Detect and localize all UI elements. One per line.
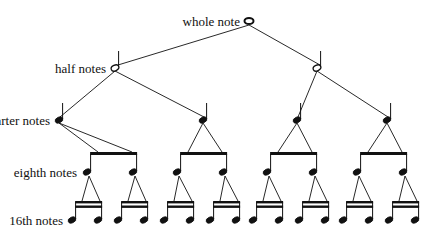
connector-line [118,25,249,65]
connector-line [269,176,281,201]
sixteenth-beam [75,206,102,208]
connector-line [59,123,98,152]
connector-line [59,123,132,152]
connector-line [135,176,146,201]
connector-line [405,176,417,201]
connector-line [203,123,222,152]
connector-line [220,176,225,201]
sixteenth-beam [256,206,283,208]
sixteenth-beam [392,201,419,203]
connector-line [278,123,297,152]
note-value-tree [0,0,439,233]
connector-line [263,176,269,201]
connector-line [188,123,203,152]
sixteenth-beam [302,206,329,208]
connector-line [315,176,327,201]
sixteenth-beam [121,206,148,208]
connector-line [359,176,371,201]
sixteenth-beam [256,201,283,203]
sixteenth-beam [167,206,194,208]
connector-line [225,176,238,201]
connector-line [353,176,359,201]
sixteenth-beam [346,201,373,203]
connector-line [174,176,179,201]
connector-line [249,25,320,65]
whole-note-icon [245,18,254,24]
connector-line [89,176,100,201]
connector-line [179,176,192,201]
sixteenth-beam [121,201,148,203]
eighth-beam [180,152,227,155]
connector-line [82,176,89,201]
sixteenth-beam [213,201,240,203]
sixteenth-beam [75,201,102,203]
sixteenth-beam [346,206,373,208]
connector-line [297,123,312,152]
connector-line [368,123,387,152]
connector-line [115,71,204,117]
connector-line [387,123,402,152]
sixteenth-beam [302,201,329,203]
sixteenth-beam [213,206,240,208]
eighth-beam [360,152,407,155]
connector-line [317,71,388,117]
sixteenth-beam [392,206,419,208]
connector-line [309,176,315,201]
sixteenth-beam [167,201,194,203]
connector-line [399,176,405,201]
connector-line [128,176,135,201]
eighth-beam [90,152,137,155]
eighth-beam [270,152,317,155]
connector-line [60,71,115,117]
